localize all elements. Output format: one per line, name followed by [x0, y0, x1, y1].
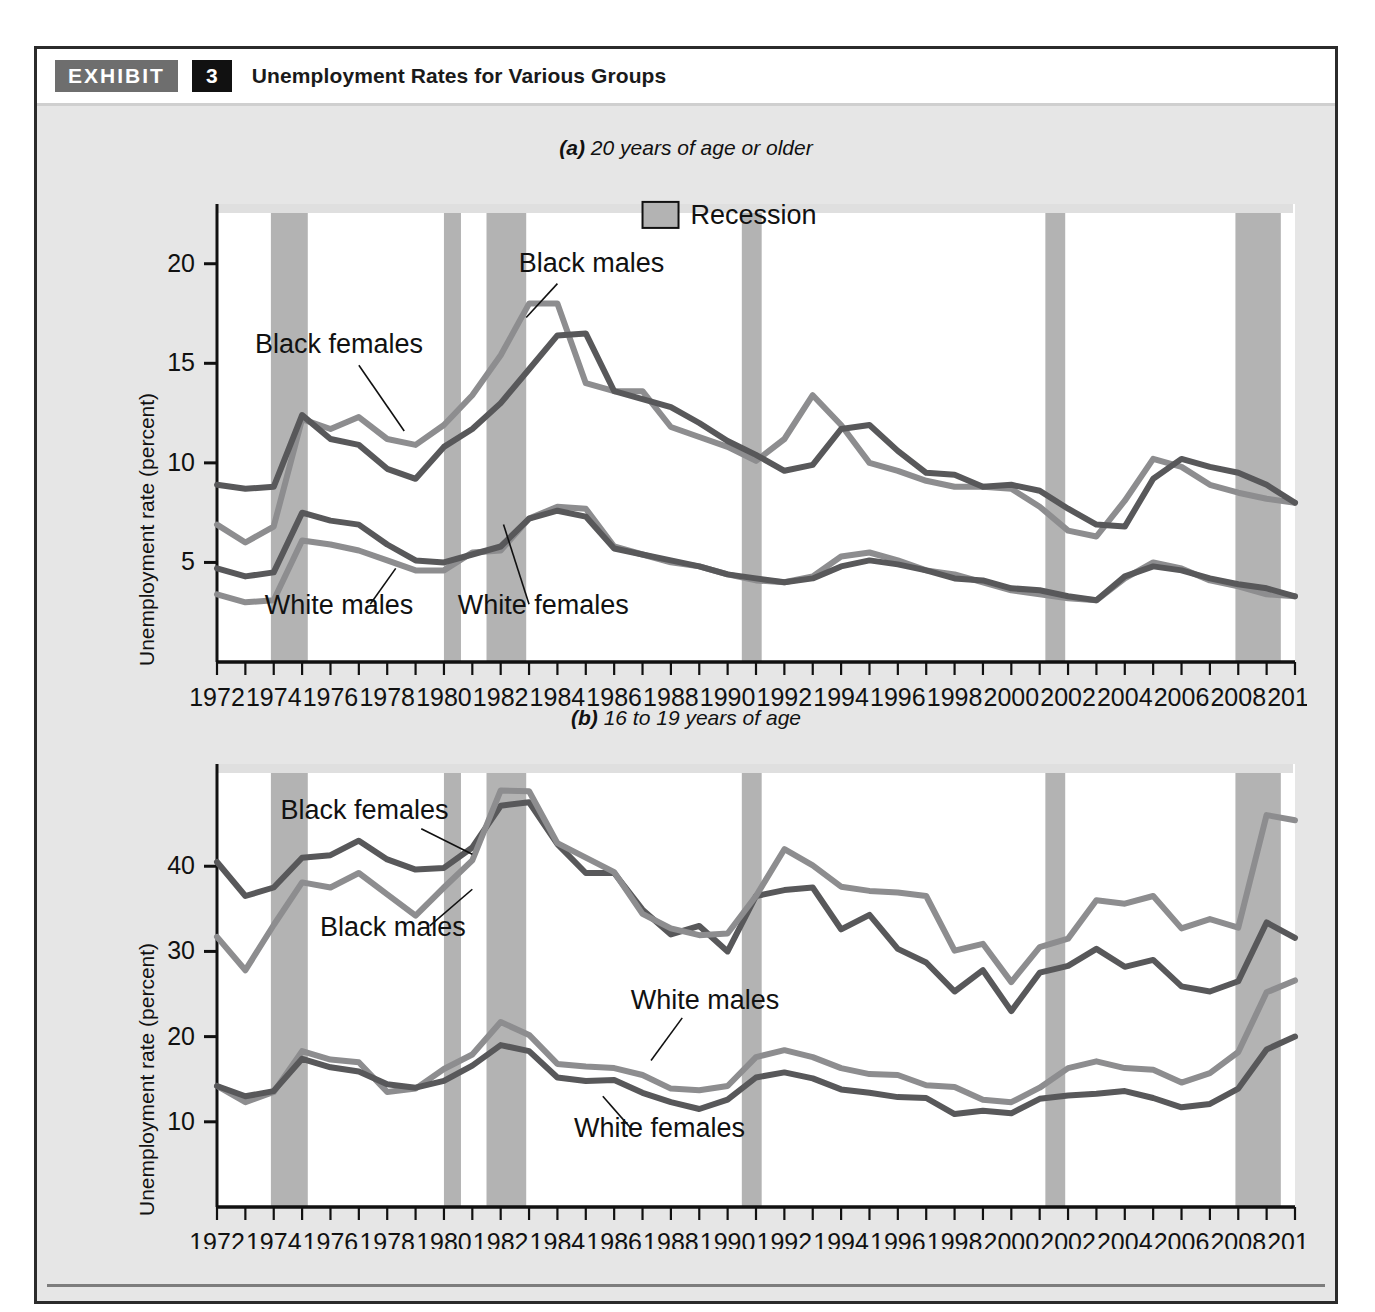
- panel-b-chart: 1020304019721974197619781980198219841986…: [107, 754, 1307, 1269]
- exhibit-title: Unemployment Rates for Various Groups: [252, 64, 666, 88]
- series-annotation: Black females: [280, 795, 448, 825]
- recession-band: [742, 213, 762, 662]
- panel-a-subtitle: (a) 20 years of age or older: [37, 136, 1335, 160]
- svg-text:5: 5: [181, 547, 195, 575]
- series-annotation: Black males: [320, 912, 466, 942]
- caption-divider: [47, 1284, 1325, 1287]
- series-annotation: White males: [265, 590, 414, 620]
- panel-b-subtitle-rest: 16 to 19 years of age: [598, 706, 801, 729]
- svg-text:30: 30: [167, 936, 195, 964]
- panel-b-subtitle: (b) 16 to 19 years of age: [37, 706, 1335, 730]
- series-annotation: White females: [458, 590, 629, 620]
- panel-a-subtitle-rest: 20 years of age or older: [585, 136, 813, 159]
- panels-container: (a) 20 years of age or older Unemploymen…: [37, 106, 1335, 1301]
- exhibit-label: EXHIBIT: [55, 60, 178, 92]
- panel-a-chart: 5101520197219741976197819801982198419861…: [107, 194, 1307, 724]
- recession-legend-swatch: [643, 202, 679, 228]
- caption-area: [37, 1249, 1335, 1301]
- recession-band: [1045, 773, 1065, 1207]
- series-annotation: White females: [574, 1113, 745, 1143]
- svg-text:20: 20: [167, 249, 195, 277]
- series-annotation: Black females: [255, 329, 423, 359]
- series-annotation: Black males: [519, 248, 665, 278]
- series-annotation: White males: [631, 985, 780, 1015]
- panel-a-subtitle-lead: (a): [559, 136, 585, 159]
- recession-legend-label: Recession: [691, 200, 817, 230]
- exhibit-header: EXHIBIT 3 Unemployment Rates for Various…: [37, 49, 1335, 103]
- svg-text:10: 10: [167, 1107, 195, 1135]
- svg-text:10: 10: [167, 448, 195, 476]
- exhibit-frame: EXHIBIT 3 Unemployment Rates for Various…: [34, 46, 1338, 1304]
- panel-b-subtitle-lead: (b): [571, 706, 598, 729]
- svg-text:20: 20: [167, 1022, 195, 1050]
- exhibit-page: EXHIBIT 3 Unemployment Rates for Various…: [0, 0, 1375, 1312]
- recession-band: [271, 773, 308, 1207]
- exhibit-number: 3: [192, 60, 232, 92]
- recession-band: [487, 773, 527, 1207]
- svg-text:40: 40: [167, 851, 195, 879]
- recession-band: [444, 773, 461, 1207]
- svg-text:15: 15: [167, 348, 195, 376]
